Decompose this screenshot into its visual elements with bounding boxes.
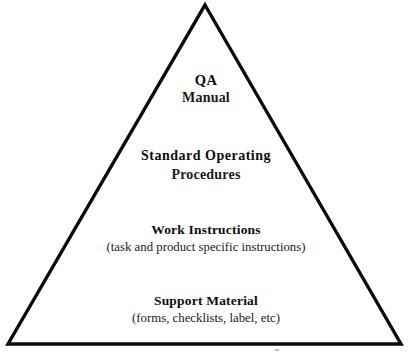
pyramid-tier-work-instructions: Work Instructions (task and product spec…	[0, 222, 412, 255]
tier-support-material-title: Support Material	[0, 293, 412, 309]
tier-qa-manual-subtitle: Manual	[0, 90, 412, 107]
tier-support-material-subtitle: (forms, checklists, label, etc)	[0, 311, 412, 326]
pyramid-tier-qa-manual: QA Manual	[0, 72, 412, 107]
tier-sop-title: Standard Operating	[0, 148, 412, 165]
pyramid-tier-support-material: Support Material (forms, checklists, lab…	[0, 293, 412, 326]
tier-qa-manual-title: QA	[0, 72, 412, 89]
tier-work-instructions-title: Work Instructions	[0, 222, 412, 238]
pyramid-diagram-canvas: QA Manual Standard Operating Procedures …	[0, 0, 412, 353]
scan-artifact-speck	[275, 349, 279, 351]
pyramid-tier-standard-operating-procedures: Standard Operating Procedures	[0, 148, 412, 183]
tier-sop-subtitle: Procedures	[0, 167, 412, 184]
tier-work-instructions-subtitle: (task and product specific instructions)	[0, 240, 412, 255]
